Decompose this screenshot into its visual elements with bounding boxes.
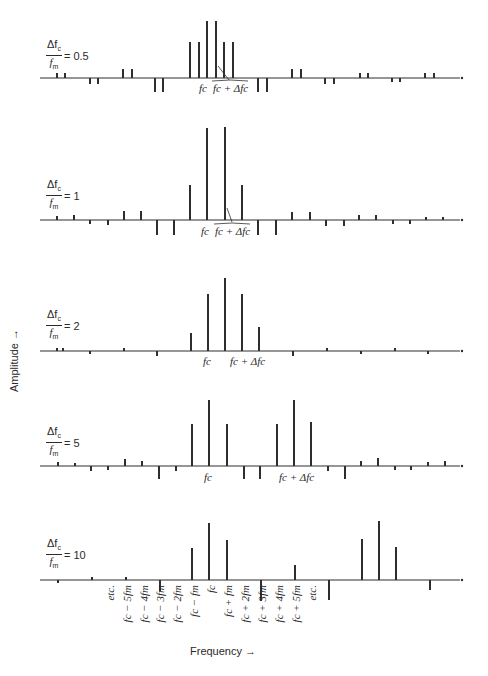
frequency-tick-label: fc + 5fm: [290, 585, 302, 622]
x-axis-arrow-icon: →: [245, 645, 256, 657]
frequency-tick-label: fc − 4fm: [138, 585, 150, 622]
ratio-label-1: Δfcfm = 1: [46, 178, 80, 213]
brace: [212, 80, 248, 81]
fc-label: fc: [199, 82, 207, 94]
ratio-value: = 10: [64, 549, 86, 561]
axis-end-dot: [461, 465, 463, 467]
frequency-tick-label: etc.: [306, 585, 318, 601]
fc-label: fc: [203, 355, 211, 367]
fc-plus-delta-label: fc + Δfc: [215, 225, 250, 237]
axis-end-dot: [461, 219, 463, 221]
frequency-tick-label: fc − 2fm: [171, 585, 183, 622]
frequency-tick-label: fc − fm: [188, 585, 200, 617]
ratio-value: = 0.5: [64, 50, 89, 62]
ratio-value: = 2: [64, 320, 80, 332]
frequency-tick-label: fc + 4fm: [273, 585, 285, 622]
fc-plus-delta-label: fc + Δfc: [213, 82, 248, 94]
frequency-tick-label: fc + 3fm: [256, 585, 268, 622]
fc-label: fc: [201, 225, 209, 237]
spectrum-panel-2: [40, 278, 463, 356]
ratio-label-2: Δfcfm = 2: [46, 308, 80, 343]
x-axis-label: Frequency →: [190, 645, 256, 657]
frequency-tick-label: fc − 5fm: [121, 585, 133, 622]
frequency-tick-label: fc + 2fm: [239, 585, 251, 622]
axis-end-dot: [461, 77, 463, 79]
ratio-label-10: Δfcfm = 10: [46, 537, 86, 572]
ratio-value: = 1: [64, 190, 80, 202]
ratio-label-5: Δfcfm = 5: [46, 425, 80, 460]
frequency-tick-label: fc: [205, 585, 217, 593]
y-axis-arrow-icon: →: [8, 329, 20, 340]
frequency-tick-label: fc − 3fm: [154, 585, 166, 622]
frequency-tick-label: etc.: [104, 585, 116, 601]
frequency-tick-label: fc + fm: [222, 585, 234, 617]
fc-label: fc: [204, 471, 212, 483]
brace: [214, 223, 250, 224]
spectrum-panels: fcfc + Δfcfcfc + Δfcfcfc + Δfcfcfc + Δfc…: [40, 21, 463, 622]
ratio-value: = 5: [64, 437, 80, 449]
y-axis-label: Amplitude →: [8, 329, 20, 392]
spectrum-panel-1: [40, 127, 463, 235]
axis-end-dot: [461, 350, 463, 352]
axis-end-dot: [461, 579, 463, 581]
spectrum-panel-0: [40, 21, 463, 92]
fc-plus-delta-label: fc + Δfc: [279, 471, 314, 483]
spectrum-panel-3: [40, 400, 463, 479]
ratio-label-0.5: Δfcfm = 0.5: [46, 38, 89, 73]
fc-plus-delta-label: fc + Δfc: [230, 355, 265, 367]
